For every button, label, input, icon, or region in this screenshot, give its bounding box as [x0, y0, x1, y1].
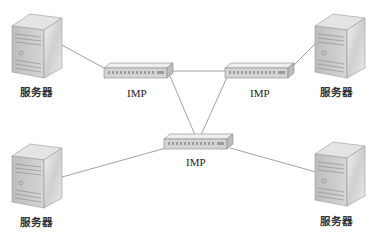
server-bottom-right — [313, 140, 367, 208]
server-icon — [10, 142, 64, 210]
server-label: 服务器 — [20, 214, 53, 229]
server-label: 服务器 — [20, 84, 53, 99]
imp-label: IMP — [127, 87, 147, 99]
imp-label: IMP — [250, 87, 270, 99]
server-bottom-left — [10, 142, 64, 210]
imp-center — [162, 133, 234, 151]
server-top-right — [313, 12, 367, 80]
server-icon — [313, 140, 367, 208]
imp-top-right — [223, 62, 295, 80]
edge-server-tl-imp-tl — [60, 44, 104, 68]
server-top-left — [10, 12, 64, 80]
server-label: 服务器 — [320, 84, 353, 99]
imp-label: IMP — [186, 156, 206, 168]
switch-icon — [102, 62, 174, 80]
edge-imp-tr-imp-center — [201, 75, 228, 135]
edge-server-bl-imp-center — [62, 148, 166, 177]
imp-top-left — [102, 62, 174, 80]
server-label: 服务器 — [320, 213, 353, 228]
edge-imp-tl-imp-center — [170, 76, 195, 135]
switch-icon — [162, 133, 234, 151]
edge-imp-center-server-br — [230, 148, 316, 172]
switch-icon — [223, 62, 295, 80]
network-diagram: 服务器 服务器 — [0, 0, 378, 235]
server-icon — [10, 12, 64, 80]
server-icon — [313, 12, 367, 80]
